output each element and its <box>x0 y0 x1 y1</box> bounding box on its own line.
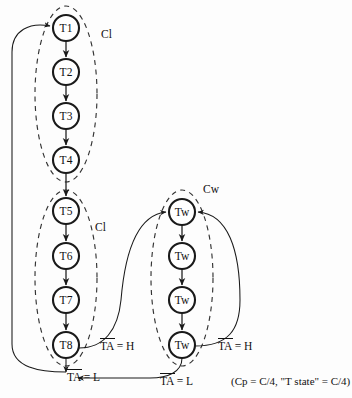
node-tw1-label: Tw <box>175 206 190 218</box>
node-t8[interactable]: T8 <box>53 332 79 358</box>
node-t3[interactable]: T3 <box>53 103 79 129</box>
label-ta-high-left-text: TA = H <box>100 340 134 352</box>
feedback-edges <box>12 25 240 378</box>
label-ta-low-left: TA = L <box>67 370 100 384</box>
node-t7[interactable]: T7 <box>53 287 79 313</box>
state-diagram-figure: T1 T2 T3 T4 T5 T6 <box>0 0 352 398</box>
node-tw4[interactable]: Tw <box>169 332 195 358</box>
node-t1[interactable]: T1 <box>53 15 79 41</box>
node-t6[interactable]: T6 <box>53 243 79 269</box>
node-t5-label: T5 <box>60 205 73 217</box>
cluster-cl-top-label: Cl <box>101 28 112 40</box>
node-t2-label: T2 <box>60 66 73 78</box>
timing-note: (Cp = C/4, "T state" = C/4) <box>231 375 351 388</box>
node-group: T1 T2 T3 T4 T5 T6 <box>53 15 195 358</box>
node-t5[interactable]: T5 <box>53 198 79 224</box>
node-t8-label: T8 <box>60 339 73 351</box>
label-ta-low-right-text: TA = L <box>160 375 193 387</box>
node-t6-label: T6 <box>60 250 73 262</box>
cluster-cl-bottom-label: Cl <box>95 221 106 233</box>
label-ta-high-right-text: TA = H <box>218 340 252 352</box>
node-tw2-label: Tw <box>175 250 190 262</box>
node-tw3-label: Tw <box>175 294 190 306</box>
state-diagram-canvas: T1 T2 T3 T4 T5 T6 <box>0 0 352 398</box>
node-t1-label: T1 <box>60 22 73 34</box>
node-tw3[interactable]: Tw <box>169 287 195 313</box>
node-t3-label: T3 <box>60 110 73 122</box>
label-ta-low-right: TA = L <box>160 374 193 388</box>
label-ta-low-left-text: TA = L <box>67 371 100 383</box>
node-t4[interactable]: T4 <box>53 147 79 173</box>
edge-tw4-tw1-ta-high <box>195 212 240 346</box>
label-ta-high-right: TA = H <box>218 339 252 353</box>
node-tw2[interactable]: Tw <box>169 243 195 269</box>
node-t4-label: T4 <box>60 154 73 166</box>
cluster-labels: Cl Cl Cw <box>95 28 220 233</box>
node-t2[interactable]: T2 <box>53 59 79 85</box>
cluster-cw-label: Cw <box>203 183 220 195</box>
node-tw4-label: Tw <box>175 339 190 351</box>
label-ta-high-left: TA = H <box>100 339 134 353</box>
node-t7-label: T7 <box>60 294 73 306</box>
condition-labels: TA = H TA = L TA = H TA = L <box>67 339 252 388</box>
node-tw1[interactable]: Tw <box>169 199 195 225</box>
